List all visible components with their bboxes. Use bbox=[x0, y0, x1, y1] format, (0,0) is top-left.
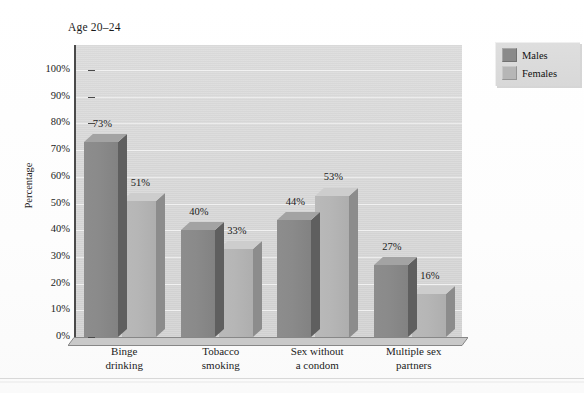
legend-swatch-icon bbox=[502, 48, 517, 62]
bar-side-face bbox=[156, 193, 165, 337]
bar-side-face bbox=[118, 134, 127, 337]
bar-value-label: 53% bbox=[309, 171, 357, 182]
bar-front-face bbox=[122, 201, 156, 337]
plot-area bbox=[76, 45, 462, 337]
gridline bbox=[76, 150, 462, 151]
chart-title: Age 20–24 bbox=[68, 21, 121, 33]
y-tick-label: 70% bbox=[51, 143, 70, 154]
legend-label: Males bbox=[522, 50, 548, 61]
gridline bbox=[76, 123, 462, 124]
bar-front-face bbox=[277, 220, 311, 337]
legend-label: Females bbox=[522, 68, 557, 79]
y-tick-label: 40% bbox=[51, 223, 70, 234]
bar-male bbox=[374, 265, 408, 337]
bar-female bbox=[315, 196, 349, 338]
y-tick-label: 0% bbox=[56, 330, 70, 341]
gridline bbox=[76, 70, 462, 71]
bar-value-label: 40% bbox=[175, 206, 223, 217]
legend-swatch-icon bbox=[502, 66, 517, 80]
y-tick-label: 60% bbox=[51, 170, 70, 181]
category-label-line1: Multiple sex bbox=[350, 345, 479, 359]
y-tick-label: 50% bbox=[51, 197, 70, 208]
legend-item-males: Males bbox=[502, 48, 574, 62]
y-tick-mark bbox=[88, 70, 95, 71]
bar-male bbox=[181, 230, 215, 337]
y-axis-ticks: 0%10%20%30%40%50%60%70%80%90%100% bbox=[18, 0, 70, 393]
figure-bottom-rule bbox=[0, 378, 584, 379]
category-label-line2: partners bbox=[350, 359, 479, 373]
figure-bottom-rule-secondary bbox=[0, 381, 584, 383]
category-label: Multiple sexpartners bbox=[350, 345, 479, 372]
bar-value-label: 44% bbox=[271, 196, 319, 207]
y-tick-label: 20% bbox=[51, 277, 70, 288]
bar-side-face bbox=[408, 257, 417, 337]
bar-front-face bbox=[84, 142, 118, 337]
bar-side-face bbox=[253, 241, 262, 337]
y-tick-label: 80% bbox=[51, 116, 70, 127]
bar-front-face bbox=[181, 230, 215, 337]
bar-side-face bbox=[215, 222, 224, 337]
y-tick-label: 100% bbox=[46, 63, 71, 74]
bar-side-face bbox=[311, 211, 320, 337]
y-tick-mark bbox=[88, 97, 95, 98]
legend-item-females: Females bbox=[502, 66, 574, 80]
y-tick-label: 30% bbox=[51, 250, 70, 261]
bar-value-label: 73% bbox=[78, 118, 126, 129]
bar-male bbox=[277, 220, 311, 337]
chart-figure: Age 20–24 Percentage 0%10%20%30%40%50%60… bbox=[0, 0, 584, 393]
y-tick-mark bbox=[88, 337, 95, 338]
bar-male bbox=[84, 142, 118, 337]
bar-front-face bbox=[315, 196, 349, 338]
bar-front-face bbox=[374, 265, 408, 337]
gridline bbox=[76, 97, 462, 98]
bar-side-face bbox=[446, 286, 455, 337]
bar-female bbox=[122, 201, 156, 337]
chart-legend: MalesFemales bbox=[495, 42, 580, 86]
bar-value-label: 27% bbox=[368, 241, 416, 252]
y-axis-line bbox=[74, 45, 76, 338]
y-tick-label: 10% bbox=[51, 303, 70, 314]
y-tick-label: 90% bbox=[51, 90, 70, 101]
bar-side-face bbox=[349, 187, 358, 337]
